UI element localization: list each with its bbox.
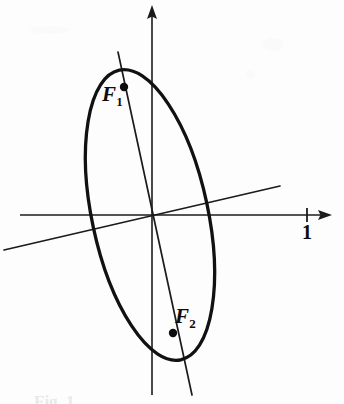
diagram-svg [0,0,344,404]
focus-label-f2: F2 [175,306,196,327]
caption-fragment: Fig. 1 [34,392,75,404]
unit-tick-label: 1 [302,222,312,242]
major-axis-line [118,52,192,395]
focus-label-f2-base: F [175,304,189,328]
focus-label-f1-subscript: 1 [116,94,123,109]
minor-axis-line [4,186,280,250]
focus-label-f1-base: F [102,82,116,106]
focus-point-f2 [169,329,177,337]
focus-label-f2-subscript: 2 [189,316,196,331]
figure-canvas: F1 F2 1 Fig. 1 [0,0,344,404]
vertical-axis [147,5,157,395]
focus-label-f1: F1 [102,84,123,105]
